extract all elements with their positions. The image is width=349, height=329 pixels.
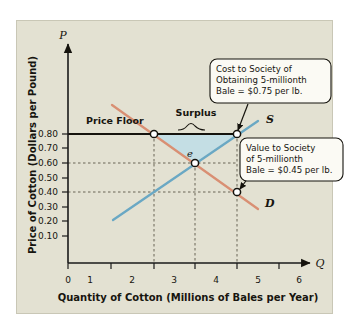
equilibrium-label: e: [187, 148, 193, 159]
x-axis-ticks: [68, 263, 279, 269]
ytick-050: 0.50: [38, 173, 58, 183]
xtick-3: 3: [171, 275, 177, 285]
xtick-2: 2: [129, 275, 135, 285]
cost-callout-line-2: Obtaining 5-millionth: [216, 75, 307, 85]
xtick-5: 5: [255, 275, 261, 285]
supply-curve-label: S: [266, 113, 274, 126]
demand-curve-label: D: [264, 197, 275, 210]
cost-callout-line-1: Cost to Society of: [216, 64, 293, 74]
x-axis-tick-labels: 0 1 2 3 4 5 6: [65, 275, 302, 285]
y-axis-tick-labels: 0.80 0.70 0.60 0.50 0.40 0.30 0.20 0.10: [38, 129, 58, 241]
ytick-080: 0.80: [38, 129, 58, 139]
surplus-label: Surplus: [176, 107, 217, 118]
cost-callout-line-3: Bale = $0.75 per lb.: [216, 86, 302, 96]
surplus-bracket: [178, 124, 205, 131]
xtick-0: 0: [65, 275, 71, 285]
value-callout-line-1: Value to Society: [246, 143, 315, 153]
surplus-region: [154, 134, 237, 163]
xtick-6: 6: [296, 275, 302, 285]
x-axis-title: Quantity of Cotton (Millions of Bales pe…: [58, 292, 319, 303]
value-callout-line-2: of 5-millionth: [246, 154, 303, 164]
point-quantity-demanded: [150, 130, 157, 137]
xtick-1: 1: [87, 275, 93, 285]
ytick-030: 0.30: [38, 202, 58, 212]
point-quantity-supplied: [233, 130, 240, 137]
point-value-to-society: [233, 188, 240, 195]
value-to-society-callout: Value to Society of 5-millionth Bale = $…: [240, 138, 343, 189]
ytick-040: 0.40: [38, 187, 58, 197]
supply-demand-chart: 0.80 0.70 0.60 0.50 0.40 0.30 0.20 0.10 …: [0, 0, 349, 329]
ytick-060: 0.60: [38, 158, 58, 168]
ytick-020: 0.20: [38, 216, 58, 226]
x-axis-symbol: Q: [315, 257, 324, 270]
y-axis-title: Price of Cotton (Dollars per Pound): [27, 56, 38, 254]
y-axis-ticks: [62, 134, 68, 236]
ytick-070: 0.70: [38, 143, 58, 153]
point-equilibrium: [191, 159, 198, 166]
xtick-4: 4: [213, 275, 219, 285]
ytick-010: 0.10: [38, 231, 58, 241]
value-callout-line-3: Bale = $0.45 per lb.: [246, 165, 332, 175]
figure-container: 0.80 0.70 0.60 0.50 0.40 0.30 0.20 0.10 …: [0, 0, 349, 329]
y-axis-symbol: P: [58, 29, 67, 42]
price-floor-label: Price Floor: [86, 115, 144, 126]
